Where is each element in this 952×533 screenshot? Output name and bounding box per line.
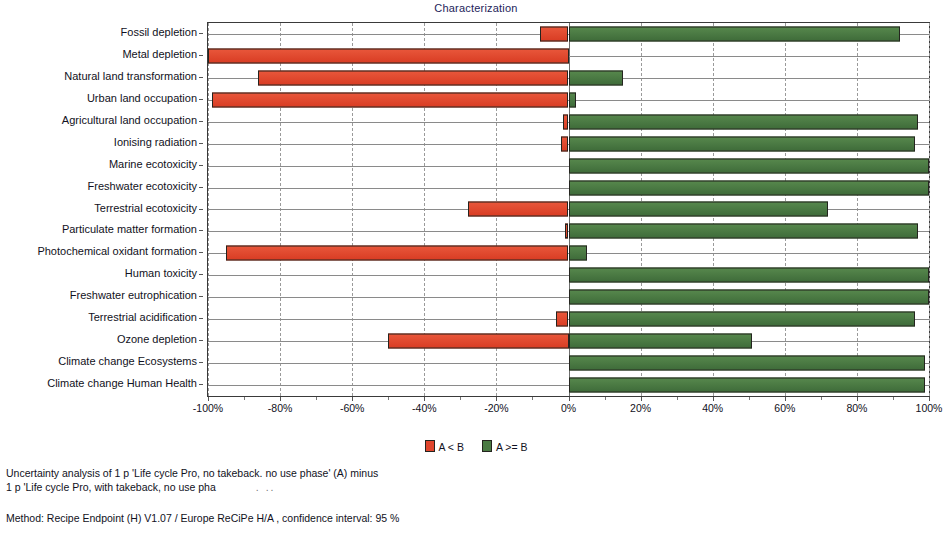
y-axis-tick [199,143,203,144]
x-axis-label: -80% [268,402,293,414]
y-axis-tick [199,99,203,100]
y-axis-label: Photochemical oxidant formation [37,241,197,263]
caption-line-2-text: 1 p 'Life cycle Pro, with takeback, no u… [6,481,216,493]
chart-row [208,220,929,242]
y-axis-tick [199,384,203,385]
legend-swatch-icon [482,440,492,452]
bar-negative[interactable] [556,312,569,327]
x-axis: -100%-80%-60%-40%-20%0%20%40%60%80%100% [207,397,930,421]
bar-negative[interactable] [212,92,569,107]
y-axis-label: Urban land occupation [87,88,197,110]
x-axis-tick [929,397,930,401]
bar-negative[interactable] [208,48,569,63]
y-axis-label: Fossil depletion [121,22,197,44]
chart-legend: A < BA >= B [0,440,952,453]
bar-positive[interactable] [569,246,587,261]
bar-negative[interactable] [561,136,568,151]
y-axis-tick [199,274,203,275]
y-axis-tick [199,230,203,231]
y-axis-label: Ionising radiation [114,132,197,154]
y-axis-tick [199,209,203,210]
y-axis-label: Particulate matter formation [62,219,197,241]
x-axis-tick [280,397,281,401]
x-axis-tick [641,397,642,401]
bar-positive[interactable] [569,356,926,371]
bar-positive[interactable] [569,180,930,195]
legend-label: A < B [439,441,464,453]
x-axis-tick [352,397,353,401]
y-axis-label: Human toxicity [125,263,197,285]
chart-row [208,67,929,89]
bar-positive[interactable] [569,202,829,217]
bar-positive[interactable] [569,312,915,327]
bar-positive[interactable] [569,224,919,239]
chart-row [208,133,929,155]
x-axis-label: 80% [846,402,867,414]
x-axis-tick [208,397,209,401]
y-axis-label: Terrestrial ecotoxicity [94,198,197,220]
bar-positive[interactable] [569,378,926,393]
x-axis-label: -40% [412,402,437,414]
y-axis-tick [199,252,203,253]
chart-row [208,89,929,111]
bar-positive[interactable] [569,92,576,107]
y-axis-label: Agricultural land occupation [62,110,197,132]
caption-truncation: . .. [256,480,276,494]
x-axis-tick [569,397,570,401]
x-axis-minor-tick [316,397,317,400]
x-axis-tick [496,397,497,401]
bar-positive[interactable] [569,114,919,129]
x-axis-minor-tick [893,397,894,400]
bar-positive[interactable] [569,268,930,283]
y-axis-tick [199,362,203,363]
x-axis-label: 20% [630,402,651,414]
y-axis-tick [199,187,203,188]
chart-row [208,330,929,352]
bar-positive[interactable] [569,334,753,349]
y-axis-tick [199,318,203,319]
legend-item[interactable]: A >= B [482,440,528,453]
caption-line-1: Uncertainty analysis of 1 p 'Life cycle … [6,466,706,480]
x-axis-label: -60% [340,402,365,414]
x-axis-tick [857,397,858,401]
bar-negative[interactable] [468,202,569,217]
y-axis-tick [199,55,203,56]
chart-caption: Uncertainty analysis of 1 p 'Life cycle … [6,466,706,494]
x-axis-label: 0% [561,402,576,414]
x-axis-tick [424,397,425,401]
bar-negative[interactable] [540,26,569,41]
bar-positive[interactable] [569,290,930,305]
y-axis-tick [199,77,203,78]
chart-row [208,199,929,221]
y-axis-label: Natural land transformation [64,66,197,88]
bar-positive[interactable] [569,136,915,151]
caption-line-2: 1 p 'Life cycle Pro, with takeback, no u… [6,480,706,494]
x-axis-minor-tick [460,397,461,400]
legend-item[interactable]: A < B [425,440,464,453]
method-line: Method: Recipe Endpoint (H) V1.07 / Euro… [6,512,399,524]
chart-row [208,45,929,67]
x-axis-minor-tick [388,397,389,400]
chart-row [208,111,929,133]
y-axis-tick [199,296,203,297]
x-axis-minor-tick [605,397,606,400]
x-axis-label: 100% [916,402,943,414]
y-axis-tick [199,33,203,34]
bar-negative[interactable] [388,334,568,349]
chart-title: Characterization [0,2,952,14]
gridline-100 [929,23,930,396]
y-axis-label: Climate change Ecosystems [58,351,197,373]
y-axis-tick [199,165,203,166]
plot-area [207,22,930,397]
y-axis-tick [199,340,203,341]
bar-positive[interactable] [569,70,623,85]
bar-negative[interactable] [258,70,568,85]
bar-positive[interactable] [569,158,930,173]
chart-row [208,308,929,330]
x-axis-minor-tick [244,397,245,400]
bar-negative[interactable] [226,246,568,261]
y-axis-label: Climate change Human Health [47,373,197,395]
x-axis-tick [713,397,714,401]
y-axis-label: Freshwater ecotoxicity [88,176,197,198]
bar-positive[interactable] [569,26,901,41]
